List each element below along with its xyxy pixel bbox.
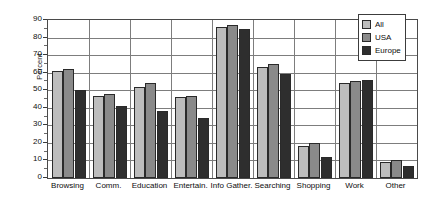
bar-europe — [280, 74, 291, 178]
bar-all — [93, 96, 104, 179]
x-tick-label: Searching — [254, 182, 290, 190]
bar-group — [52, 20, 86, 178]
gridline-vertical — [212, 20, 213, 178]
bar-europe — [362, 80, 373, 178]
bar-usa — [391, 160, 402, 178]
y-tick-label: 50 — [0, 85, 42, 93]
gridline-vertical — [335, 20, 336, 178]
y-tick-label: 30 — [0, 120, 42, 128]
legend-item-all[interactable]: All — [362, 18, 401, 31]
bar-usa — [309, 143, 320, 178]
bar-usa — [63, 69, 74, 178]
x-tick-label: Work — [345, 182, 364, 190]
bar-all — [257, 67, 268, 178]
bar-group — [216, 20, 250, 178]
bar-group — [298, 20, 332, 178]
bar-all — [298, 146, 309, 178]
x-tick-label: Entertain. — [173, 182, 207, 190]
bar-europe — [157, 111, 168, 178]
bar-all — [216, 27, 227, 178]
legend-item-europe[interactable]: Europe — [362, 44, 401, 57]
legend-swatch-icon — [362, 46, 371, 55]
bar-europe — [239, 29, 250, 178]
gridline-vertical — [130, 20, 131, 178]
y-tick-label: 60 — [0, 68, 42, 76]
legend-label: Europe — [375, 47, 401, 55]
y-tick-label: 70 — [0, 50, 42, 58]
bar-europe — [403, 166, 414, 178]
bar-group — [93, 20, 127, 178]
bar-usa — [350, 81, 361, 178]
bar-usa — [186, 96, 197, 179]
bar-all — [52, 71, 63, 178]
x-tick-label: Shopping — [297, 182, 331, 190]
y-tick-label: 90 — [0, 15, 42, 23]
chart-legend: AllUSAEurope — [358, 14, 406, 61]
bar-all — [380, 162, 391, 178]
bar-usa — [145, 83, 156, 178]
gridline-vertical — [89, 20, 90, 178]
bar-europe — [116, 106, 127, 178]
legend-swatch-icon — [362, 33, 371, 42]
legend-item-usa[interactable]: USA — [362, 31, 401, 44]
bar-europe — [75, 90, 86, 178]
y-tick-label: 10 — [0, 155, 42, 163]
bar-europe — [321, 157, 332, 178]
x-tick-label: Other — [385, 182, 405, 190]
gridline-vertical — [253, 20, 254, 178]
bar-all — [339, 83, 350, 178]
bar-all — [134, 87, 145, 178]
x-tick-label: Education — [132, 182, 168, 190]
gridline-vertical — [171, 20, 172, 178]
bar-usa — [104, 94, 115, 178]
legend-label: All — [375, 21, 384, 29]
y-tick-label: 40 — [0, 103, 42, 111]
bar-usa — [227, 25, 238, 178]
y-tick-label: 80 — [0, 33, 42, 41]
y-tick-label: 20 — [0, 138, 42, 146]
bar-group — [175, 20, 209, 178]
bar-group — [134, 20, 168, 178]
bar-usa — [268, 64, 279, 178]
legend-swatch-icon — [362, 20, 371, 29]
x-tick-label: Info Gather. — [211, 182, 253, 190]
x-tick-label: Comm. — [96, 182, 122, 190]
bar-europe — [198, 118, 209, 178]
y-tick-label: 0 — [0, 173, 42, 181]
legend-label: USA — [375, 34, 391, 42]
x-tick-label: Browsing — [51, 182, 84, 190]
gridline-vertical — [294, 20, 295, 178]
bar-chart: Percent 0102030405060708090 BrowsingComm… — [0, 0, 439, 211]
bar-all — [175, 97, 186, 178]
bar-group — [257, 20, 291, 178]
